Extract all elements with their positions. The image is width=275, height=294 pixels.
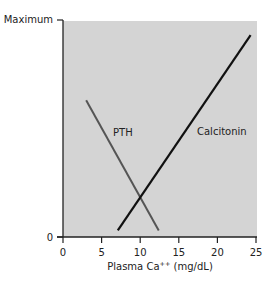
x-tick-label: 25	[250, 247, 263, 258]
pth-label: PTH	[113, 127, 133, 138]
x-tick-label: 10	[134, 247, 147, 258]
calcitonin-label: Calcitonin	[197, 126, 247, 137]
y-zero-label: 0	[47, 232, 53, 243]
x-tick-label: 5	[98, 247, 104, 258]
x-tick-label: 15	[172, 247, 185, 258]
x-ticks: 0510152025	[60, 237, 263, 258]
x-tick-label: 20	[211, 247, 224, 258]
x-tick-label: 0	[60, 247, 66, 258]
y-max-label: Maximum	[4, 14, 53, 25]
chart: Maximum 0 0510152025 PTH Calcitonin Plas…	[0, 0, 275, 294]
x-axis-title: Plasma Ca++ (mg/dL)	[107, 260, 213, 272]
